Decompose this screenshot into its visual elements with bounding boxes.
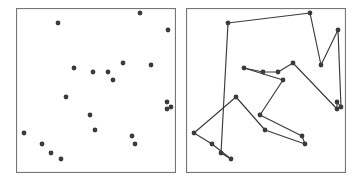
data-point bbox=[234, 95, 239, 100]
data-point bbox=[88, 113, 93, 118]
data-point bbox=[138, 11, 143, 16]
data-point bbox=[165, 100, 170, 105]
data-point bbox=[242, 66, 247, 71]
data-point bbox=[111, 78, 116, 83]
data-point bbox=[291, 61, 296, 66]
data-point bbox=[56, 21, 61, 26]
data-point bbox=[169, 105, 174, 110]
data-point bbox=[276, 70, 281, 75]
data-point bbox=[281, 78, 286, 83]
data-point bbox=[229, 157, 234, 162]
panel-border bbox=[187, 9, 346, 173]
tour-panel bbox=[186, 8, 346, 173]
data-point bbox=[64, 95, 69, 100]
data-point bbox=[149, 63, 154, 68]
data-point bbox=[106, 70, 111, 75]
data-point bbox=[263, 128, 268, 133]
data-point bbox=[166, 28, 171, 33]
data-point bbox=[59, 157, 64, 162]
data-point bbox=[22, 131, 27, 136]
data-point bbox=[303, 142, 308, 147]
points-panel bbox=[16, 8, 176, 173]
data-point bbox=[210, 142, 215, 147]
data-point bbox=[133, 142, 138, 147]
data-point bbox=[91, 70, 96, 75]
data-point bbox=[335, 100, 340, 105]
data-point bbox=[258, 113, 263, 118]
data-point bbox=[319, 63, 324, 68]
data-point bbox=[308, 11, 313, 16]
tour-panel-canvas bbox=[186, 8, 346, 173]
data-point bbox=[219, 151, 224, 156]
data-point bbox=[121, 61, 126, 66]
panel-border bbox=[17, 9, 176, 173]
data-point bbox=[336, 28, 341, 33]
data-point bbox=[261, 70, 266, 75]
data-point bbox=[339, 105, 344, 110]
data-point bbox=[40, 142, 45, 147]
data-point bbox=[226, 21, 231, 26]
figure-root bbox=[0, 0, 360, 185]
data-point bbox=[192, 131, 197, 136]
data-point bbox=[93, 128, 98, 133]
data-point bbox=[300, 134, 305, 139]
data-point bbox=[72, 66, 77, 71]
data-point bbox=[49, 151, 54, 156]
data-point bbox=[130, 134, 135, 139]
points-panel-canvas bbox=[16, 8, 176, 173]
